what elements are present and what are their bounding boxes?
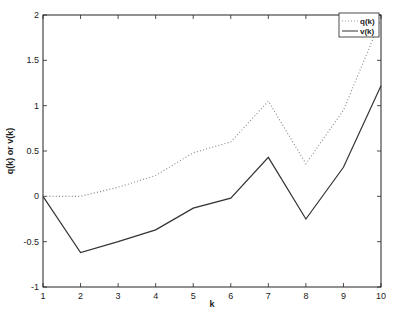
x-tick-label: 6	[228, 291, 233, 301]
y-tick-label: 1.5	[26, 55, 39, 65]
x-tick-label: 9	[341, 291, 346, 301]
x-tick-label: 8	[303, 291, 308, 301]
y-tick-label: 0.5	[26, 146, 39, 156]
x-tick-label: 2	[78, 291, 83, 301]
x-tick-label: 7	[266, 291, 271, 301]
x-tick-label: 5	[191, 291, 196, 301]
y-axis-label: q(k) or v(k)	[5, 128, 15, 175]
y-tick-label: 0	[34, 191, 39, 201]
y-tick-label: -0.5	[23, 237, 39, 247]
y-tick-label: 1	[34, 101, 39, 111]
line-chart: 12345678910-1-0.500.511.52 k q(k) or v(k…	[0, 0, 398, 318]
y-tick-label: -1	[31, 282, 39, 292]
x-tick-label: 1	[40, 291, 45, 301]
legend-q-label: q(k)	[360, 17, 375, 26]
y-tick-label: 2	[34, 10, 39, 20]
x-tick-label: 4	[153, 291, 158, 301]
legend: q(k) v(k)	[339, 13, 379, 37]
plot-area	[43, 15, 381, 287]
x-tick-label: 10	[376, 291, 386, 301]
x-axis-label: k	[209, 299, 215, 309]
legend-v-label: v(k)	[360, 27, 375, 36]
x-tick-label: 3	[116, 291, 121, 301]
